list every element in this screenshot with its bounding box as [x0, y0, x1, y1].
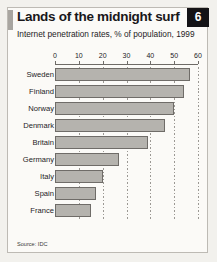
category-label: Britain [32, 138, 54, 147]
x-tick-label: 20 [99, 52, 107, 59]
x-tick-mark [150, 61, 151, 64]
bar-row: Denmark [8, 118, 207, 135]
category-label: Norway [28, 104, 54, 113]
x-tick-mark [127, 61, 128, 64]
category-label: Sweden [27, 70, 54, 79]
x-tick-mark [198, 61, 199, 64]
figure-number-badge: 6 [187, 8, 209, 27]
accent-bar [8, 10, 13, 30]
x-tick-label: 50 [170, 52, 178, 59]
bar [55, 85, 184, 98]
x-tick-mark [103, 61, 104, 64]
chart-title: Lands of the midnight surf [17, 9, 179, 24]
category-label: Denmark [23, 121, 54, 130]
x-tick-label: 30 [123, 52, 131, 59]
bar [55, 204, 91, 217]
x-tick-label: 10 [75, 52, 83, 59]
bar-row: Sweden [8, 67, 207, 84]
bar [55, 136, 148, 149]
bar [55, 68, 190, 81]
x-tick-mark [79, 61, 80, 64]
x-tick-mark [174, 61, 175, 64]
plot-area: 0102030405060 SwedenFinlandNorwayDenmark… [8, 52, 207, 220]
chart-subtitle: Internet penetration rates, % of populat… [17, 29, 195, 39]
bar-row: France [8, 203, 207, 220]
bar-row: Finland [8, 84, 207, 101]
x-axis: 0102030405060 [8, 52, 207, 67]
x-tick-label: 0 [53, 52, 57, 59]
category-label: France [30, 206, 54, 215]
bar-row: Britain [8, 135, 207, 152]
chart-figure: Lands of the midnight surf 6 Internet pe… [0, 0, 217, 262]
bar-row: Germany [8, 152, 207, 169]
bar [55, 119, 165, 132]
category-label: Spain [35, 189, 54, 198]
x-axis-line [55, 64, 198, 65]
bars-container: SwedenFinlandNorwayDenmarkBritainGermany… [8, 67, 207, 220]
bar [55, 153, 119, 166]
x-tick-label: 60 [194, 52, 202, 59]
bar-row: Spain [8, 186, 207, 203]
bar [55, 170, 103, 183]
chart-header: Lands of the midnight surf 6 Internet pe… [8, 8, 210, 50]
bar [55, 102, 174, 115]
x-tick-label: 40 [146, 52, 154, 59]
category-label: Germany [23, 155, 54, 164]
bar-row: Norway [8, 101, 207, 118]
x-tick-mark [55, 61, 56, 64]
source-note: Source: IDC [17, 241, 47, 247]
bar-row: Italy [8, 169, 207, 186]
category-label: Finland [29, 87, 54, 96]
category-label: Italy [40, 172, 54, 181]
bar [55, 187, 96, 200]
